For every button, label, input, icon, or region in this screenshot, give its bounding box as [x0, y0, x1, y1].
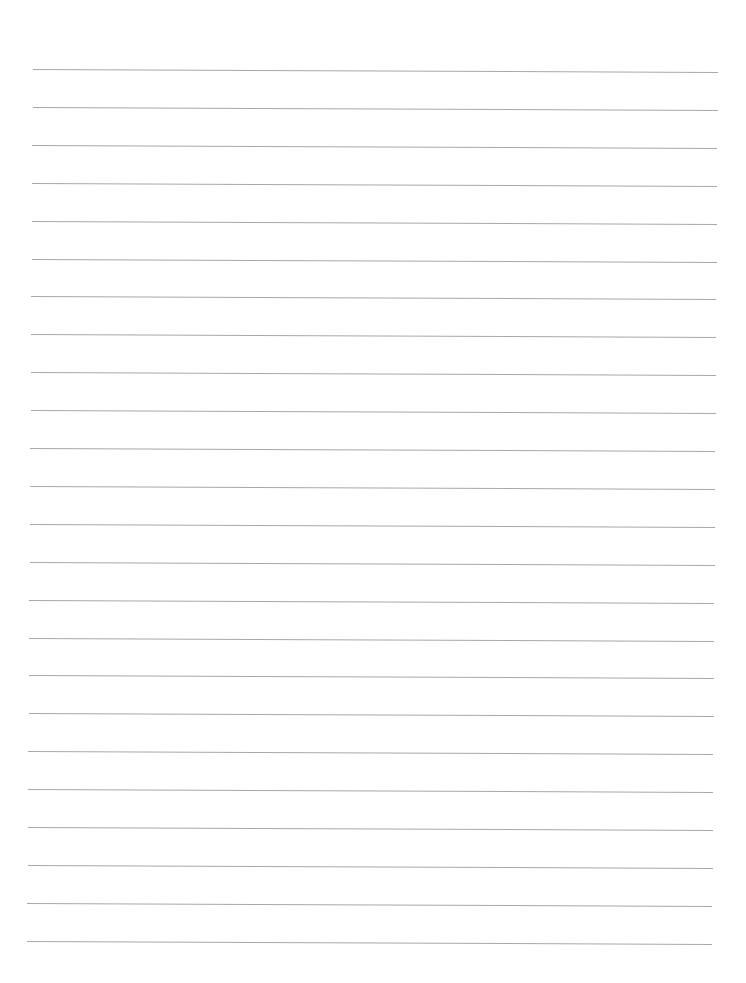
ruled-line [28, 865, 713, 869]
lined-paper-page [0, 0, 746, 983]
ruled-line [32, 221, 717, 225]
ruled-line [31, 410, 716, 414]
ruled-line [31, 296, 716, 300]
ruled-line [28, 751, 713, 755]
ruled-line [27, 941, 712, 945]
ruled-line [30, 448, 715, 452]
ruled-line [30, 562, 715, 566]
ruled-line [31, 334, 716, 338]
ruled-line [29, 675, 714, 679]
ruled-line [29, 600, 714, 604]
ruled-line [32, 259, 717, 263]
ruled-line [27, 903, 712, 907]
ruled-line [31, 372, 716, 376]
ruled-line [28, 789, 713, 793]
ruled-line [33, 107, 718, 111]
ruled-line [32, 145, 717, 149]
ruled-line [28, 827, 713, 831]
ruled-line [32, 183, 717, 187]
ruled-line [30, 486, 715, 490]
ruled-line [33, 69, 718, 73]
ruled-line [29, 713, 714, 717]
ruled-line [30, 524, 715, 528]
ruled-line [29, 638, 714, 642]
